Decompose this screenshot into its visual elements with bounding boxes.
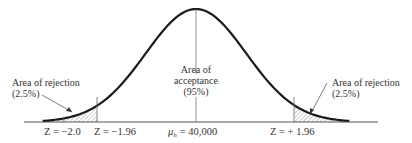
right-rejection-label-line2: (2.5%) [332, 88, 360, 100]
acceptance-label-line1: Area of [181, 64, 212, 75]
acceptance-label-line2: acceptance [174, 75, 218, 86]
mu-subscript: h [173, 131, 177, 139]
z-minus-196-label: Z = −1.96 [94, 126, 136, 137]
z-minus-2-label: Z = −2.0 [44, 126, 81, 137]
left-rejection-label-line2: (2.5%) [12, 88, 40, 100]
right-rejection-label-line1: Area of rejection [332, 77, 400, 88]
right-label-pointer [311, 83, 327, 113]
z-plus-196-label: Z = + 1.96 [270, 126, 315, 137]
mean-label: μh= 40,000 [167, 126, 217, 139]
normal-curve-diagram: Area of acceptance (95%) Area of rejecti… [0, 0, 412, 143]
acceptance-label-line3: (95%) [184, 86, 209, 98]
left-rejection-label-line1: Area of rejection [12, 77, 80, 88]
mu-value: = 40,000 [180, 126, 217, 137]
